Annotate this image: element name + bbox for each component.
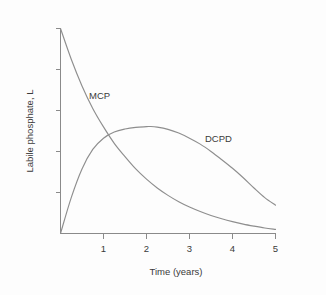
line-chart-canvas: 1 2 3 4 5 Time (years) Labile phosphate,…	[0, 0, 326, 295]
x-tick-label-4: 4	[230, 243, 235, 254]
series-line-dcpd	[61, 126, 276, 233]
x-axis-title: Time (years)	[150, 266, 203, 277]
x-tick-label-3: 3	[187, 243, 192, 254]
x-tick-label-1: 1	[101, 243, 106, 254]
x-axis-ticks	[104, 234, 276, 240]
chart-axes	[61, 28, 277, 234]
chart-figure: 1 2 3 4 5 Time (years) Labile phosphate,…	[0, 0, 326, 295]
x-tick-label-2: 2	[144, 243, 149, 254]
series-label-dcpd: DCPD	[205, 133, 232, 144]
y-axis-title: Labile phosphate, L	[24, 90, 35, 173]
series-label-mcp: MCP	[89, 90, 110, 101]
x-tick-label-5: 5	[273, 243, 278, 254]
y-axis-ticks	[56, 29, 61, 193]
